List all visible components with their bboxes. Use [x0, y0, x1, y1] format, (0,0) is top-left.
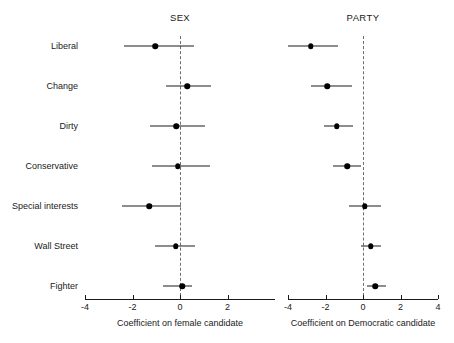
- x-axis-tick-party-4: [438, 295, 439, 299]
- estimate-point-sex-fighter: [180, 283, 186, 289]
- estimate-point-party-liberal: [308, 43, 314, 49]
- confidence-interval-sex-liberal: [124, 46, 194, 47]
- estimate-point-party-special-interests: [362, 203, 368, 209]
- estimate-point-party-conservative: [344, 163, 350, 169]
- x-axis-tick-label-sex-2: 0: [177, 302, 182, 312]
- x-axis-tick-label-party-0: -4: [284, 302, 292, 312]
- row-label-wall-street: Wall Street: [34, 241, 78, 251]
- row-label-conservative: Conservative: [25, 161, 78, 171]
- x-axis-tick-label-sex-0: -4: [81, 302, 89, 312]
- panel-title-party: PARTY: [303, 12, 423, 23]
- x-axis-tick-sex-3: [228, 295, 229, 299]
- x-axis-caption-party: Coefficient on Democratic candidate: [263, 318, 454, 328]
- estimate-point-party-dirty: [334, 123, 340, 129]
- row-label-liberal: Liberal: [51, 41, 78, 51]
- x-axis-tick-party-0: [288, 295, 289, 299]
- estimate-point-sex-wall-street: [173, 243, 179, 249]
- confidence-interval-party-change: [311, 86, 352, 87]
- x-axis-tick-label-sex-1: -2: [128, 302, 136, 312]
- x-axis-tick-label-party-2: 0: [360, 302, 365, 312]
- x-axis-tick-label-party-1: -2: [321, 302, 329, 312]
- confidence-interval-sex-fighter: [163, 286, 192, 287]
- x-axis-tick-label-party-4: 4: [435, 302, 440, 312]
- estimate-point-sex-liberal: [152, 43, 158, 49]
- x-axis-line-sex: [85, 299, 275, 300]
- row-label-special-interests: Special interests: [12, 201, 78, 211]
- x-axis-tick-sex-0: [85, 295, 86, 299]
- panel-title-sex: SEX: [120, 12, 240, 23]
- reference-line-zero: [363, 36, 364, 296]
- estimate-point-sex-special-interests: [146, 203, 152, 209]
- x-axis-caption-sex: Coefficient on female candidate: [80, 318, 280, 328]
- estimate-point-sex-conservative: [175, 163, 181, 169]
- row-label-fighter: Fighter: [50, 281, 78, 291]
- estimate-point-party-wall-street: [368, 243, 374, 249]
- estimate-point-party-fighter: [372, 283, 378, 289]
- estimate-point-sex-dirty: [174, 123, 180, 129]
- x-axis-tick-label-sex-3: 2: [225, 302, 230, 312]
- x-axis-tick-party-2: [363, 295, 364, 299]
- x-axis-tick-party-3: [401, 295, 402, 299]
- estimate-point-sex-change: [184, 83, 190, 89]
- x-axis-tick-label-party-3: 2: [398, 302, 403, 312]
- coefficient-plot-figure: LiberalChangeDirtyConservativeSpecial in…: [0, 0, 454, 343]
- row-label-dirty: Dirty: [60, 121, 79, 131]
- x-axis-tick-sex-1: [133, 295, 134, 299]
- confidence-interval-sex-conservative: [152, 166, 210, 167]
- x-axis-tick-sex-2: [180, 295, 181, 299]
- x-axis-line-party: [288, 299, 438, 300]
- row-label-change: Change: [46, 81, 78, 91]
- estimate-point-party-change: [325, 83, 331, 89]
- x-axis-tick-party-1: [326, 295, 327, 299]
